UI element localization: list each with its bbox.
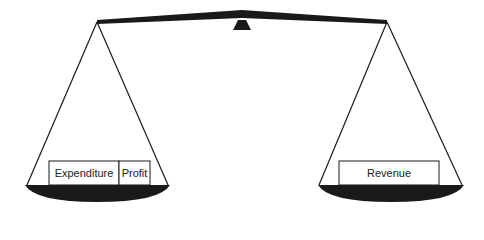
- left-pan: [25, 185, 170, 202]
- fulcrum: [233, 20, 251, 30]
- right-pan: [318, 185, 464, 202]
- expenditure-label: Expenditure: [49, 161, 119, 185]
- revenue-label: Revenue: [339, 161, 439, 185]
- profit-label: Profit: [119, 161, 150, 185]
